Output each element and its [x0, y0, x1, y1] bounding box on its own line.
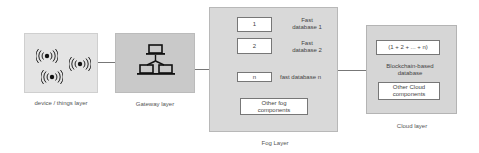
wireless-signal-icon [41, 69, 63, 85]
fog-db-2-label: Fast database 2 [282, 40, 332, 54]
connector-device-gateway [98, 62, 115, 63]
connector-gateway-fog [195, 69, 209, 70]
network-topology-icon [135, 43, 177, 77]
fog-db-1-label-line1: Fast [282, 17, 332, 24]
cloud-layer-caption: Cloud layer [376, 123, 448, 129]
fog-db-1-box: 1 [237, 17, 272, 32]
connector-fog-cloud [338, 70, 366, 71]
cloud-aggregate-box: (1 + 2 + ... + n) [376, 40, 440, 55]
fog-db-2-label-line1: Fast [282, 40, 332, 47]
blockchain-db-label-line2: database [370, 70, 450, 77]
blockchain-db-label: Blockchain-based database [370, 63, 450, 77]
other-fog-line1: Other fog [261, 100, 286, 107]
gateway-layer-box [115, 33, 195, 93]
fog-db-2-box: 2 [237, 38, 272, 54]
gateway-layer-caption: Gateway layer [115, 101, 195, 107]
fog-db-n-label: fast database n [280, 74, 336, 81]
other-cloud-line2: components [393, 91, 426, 98]
other-fog-components-box: Other fog components [240, 98, 308, 115]
fog-db-1-label: Fast database 1 [282, 17, 332, 31]
fog-db-1-label-line2: database 1 [282, 24, 332, 31]
wireless-signal-icon [69, 56, 91, 72]
other-cloud-components-box: Other Cloud components [378, 82, 440, 100]
fog-layer-caption: Fog Layer [245, 140, 305, 146]
other-cloud-line1: Other Cloud [393, 84, 425, 91]
fog-db-n-box: n [237, 72, 272, 82]
wireless-signal-icon [36, 48, 58, 64]
fog-db-2-label-line2: database 2 [282, 47, 332, 54]
other-fog-line2: components [258, 107, 291, 114]
device-layer-caption: device / things layer [18, 100, 104, 106]
blockchain-db-label-line1: Blockchain-based [370, 63, 450, 70]
device-layer-box [24, 33, 98, 93]
